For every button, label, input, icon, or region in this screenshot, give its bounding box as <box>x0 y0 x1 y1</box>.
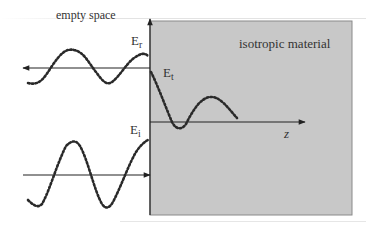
transmitted-field-subscript: t <box>171 71 174 82</box>
incident-wave <box>28 140 148 207</box>
transmitted-field-label: Et <box>163 65 174 82</box>
empty-space-label: empty space <box>56 8 116 23</box>
z-axis-label: z <box>284 126 289 142</box>
transmitted-field-symbol: E <box>163 65 171 80</box>
incident-field-symbol: E <box>130 122 138 137</box>
reflected-field-subscript: r <box>139 39 142 50</box>
reflected-wave <box>28 50 148 84</box>
reflected-field-label: Er <box>131 33 142 50</box>
incident-field-label: Ei <box>130 122 141 139</box>
incident-field-subscript: i <box>138 128 141 139</box>
isotropic-material-label: isotropic material <box>239 36 330 52</box>
wave-diagram <box>0 0 366 227</box>
reflected-field-symbol: E <box>131 33 139 48</box>
